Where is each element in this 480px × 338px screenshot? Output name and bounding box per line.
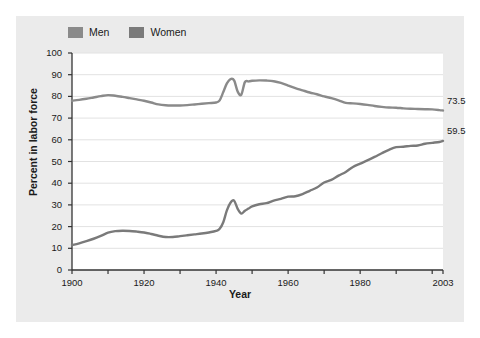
x-axis-label: Year [16,288,464,300]
y-tick-label: 20 [32,221,62,232]
y-axis-label: Percent in labor force [27,67,39,217]
x-tick-label: 1980 [338,277,382,288]
y-tick-label: 10 [32,242,62,253]
x-tick-label: 2003 [421,277,465,288]
x-tick-label: 1940 [194,277,238,288]
endpoint-label-women: 59.5 [447,125,466,136]
x-tick-label: 1900 [50,277,94,288]
x-tick-label: 1920 [122,277,166,288]
y-tick-label: 100 [32,47,62,58]
chart-figure: Men Women 0102030405060708090100 1900192… [16,16,464,322]
plot-area: 0102030405060708090100 19001920194019601… [16,16,464,322]
y-tick-label: 0 [32,264,62,275]
endpoint-label-men: 73.5 [447,95,466,106]
x-tick-label: 1960 [266,277,310,288]
